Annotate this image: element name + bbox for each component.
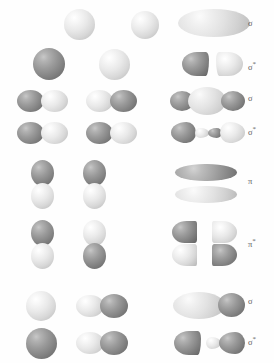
s-orbital-right (99, 49, 130, 80)
atomic-orbitals-s-s-sigma (0, 4, 168, 44)
label-sigma-star-1: σ* (248, 61, 256, 71)
molecular-orbital-sigma-bonding-p (168, 86, 246, 116)
molecular-orbital-pi-antibonding (168, 218, 246, 273)
s-orbital-left (26, 291, 56, 321)
sigma-star-lobe-4-light (220, 122, 245, 143)
sigma-star-sp-cone (174, 331, 201, 355)
p-lobe-right-negative (86, 122, 113, 144)
p-lobe-left-positive (41, 122, 68, 144)
sigma-bonding-ellipse (178, 9, 250, 37)
pi-star-wedge-left-top (172, 221, 197, 243)
row-p-p-sigma: σ (0, 86, 274, 116)
pi-star-wedge-left-bottom (172, 244, 197, 266)
atomic-orbitals-s-p-sigma (0, 288, 168, 325)
row-s-s-sigma: σ (0, 4, 274, 44)
atomic-orbitals-p-p-sigma-star (0, 117, 168, 148)
p-lobe-right-bottom-positive (83, 183, 106, 209)
row-p-p-sigma-star: σ* (0, 117, 274, 148)
s-orbital-right (131, 11, 159, 39)
p-lobe-left-negative (17, 122, 44, 144)
label-sigma-3: σ (248, 297, 253, 306)
sigma-sp-small-lobe (218, 293, 245, 317)
p-lobe-left-negative (17, 90, 44, 112)
p-lobe-right-positive (110, 122, 137, 144)
molecular-orbital-sigma-antibonding-sp (168, 325, 246, 363)
atomic-orbitals-s-s-sigma-star (0, 44, 168, 84)
sigma-antibonding-cone-left (182, 52, 209, 76)
sigma-p-lobe-outer-right (221, 91, 245, 111)
row-s-p-sigma: σ (0, 288, 274, 325)
sigma-star-lobe-2-light (195, 128, 209, 138)
row-s-p-sigma-star: σ* (0, 325, 274, 363)
p-lobe-right-bottom-negative (83, 243, 106, 269)
p-lobe-negative (100, 294, 128, 318)
label-sigma-star-3: σ* (248, 336, 256, 346)
sigma-star-sp-large-lobe (219, 332, 245, 354)
label-sigma-2: σ (248, 94, 253, 103)
sigma-star-lobe-1-dark (171, 122, 196, 143)
pi-bonding-sausage-bottom (175, 186, 237, 203)
p-lobe-left-bottom-positive (31, 183, 54, 209)
molecular-orbital-sigma-antibonding (168, 44, 246, 84)
atomic-orbitals-p-p-sigma (0, 86, 168, 116)
s-orbital-left (33, 48, 65, 80)
p-lobe-left-positive (41, 90, 68, 112)
p-lobe-left-bottom-positive (31, 243, 54, 269)
atomic-orbitals-s-p-sigma-star (0, 325, 168, 363)
sigma-antibonding-cone-right (216, 52, 243, 76)
mo-overlap-diagram: σ σ* σ (0, 0, 274, 363)
pi-star-wedge-right-bottom (212, 244, 237, 266)
row-p-p-pi: π (0, 158, 274, 213)
p-lobe-right-negative (110, 90, 137, 112)
label-pi: π (248, 177, 252, 186)
molecular-orbital-sigma-bonding-sp (168, 288, 246, 325)
row-p-p-pi-star: π* (0, 218, 274, 273)
pi-star-wedge-right-top (212, 221, 237, 243)
s-orbital-left (64, 9, 95, 40)
pi-bonding-sausage-top (175, 164, 237, 181)
label-sigma-star-2: σ* (248, 126, 256, 136)
p-lobe-negative (100, 331, 128, 355)
molecular-orbital-pi-bonding (168, 158, 246, 213)
molecular-orbital-sigma-bonding (168, 4, 246, 44)
s-orbital-left (26, 328, 57, 359)
atomic-orbitals-p-p-pi-star (0, 218, 168, 273)
row-s-s-sigma-star: σ* (0, 44, 274, 84)
label-sigma-1: σ (248, 19, 253, 28)
molecular-orbital-sigma-antibonding-p (168, 117, 246, 148)
p-lobe-right-positive (86, 90, 113, 112)
label-pi-star: π* (248, 238, 256, 248)
atomic-orbitals-p-p-pi (0, 158, 168, 213)
